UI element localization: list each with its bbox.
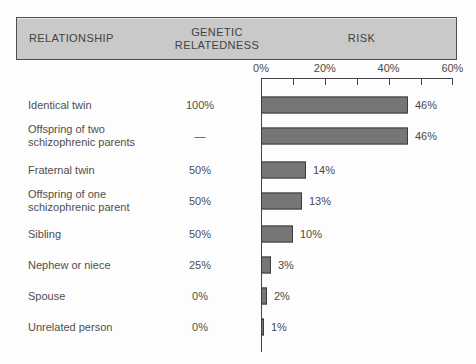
relationship-label: Unrelated person [28,320,168,333]
x-axis-tick [261,79,262,85]
risk-value-label: 1% [271,321,287,333]
y-axis-line [261,78,262,352]
x-axis-tick-label: 40% [378,63,400,74]
column-header-bar: RELATIONSHIP GENETIC RELATEDNESS RISK [16,17,457,60]
x-axis-tick [325,79,326,85]
relationship-label: Offspring of one schizophrenic parent [28,188,168,214]
relationship-label: Spouse [28,289,168,302]
genetic-relatedness-value: 100% [160,99,240,111]
x-axis-tick-label: 20% [314,63,336,74]
relationship-label: Fraternal twin [28,163,168,176]
header-risk: RISK [267,32,456,45]
risk-bar [261,225,293,242]
risk-bar [261,161,306,178]
risk-bar [261,318,264,335]
genetic-relatedness-value: 50% [160,228,240,240]
risk-bar [261,96,408,113]
risk-bar [261,192,302,209]
genetic-relatedness-value: 0% [160,290,240,302]
header-genetic-relatedness: GENETIC RELATEDNESS [167,26,267,52]
x-axis-tick [293,79,294,85]
risk-value-label: 14% [313,164,335,176]
relationship-label: Nephew or niece [28,258,168,271]
risk-value-label: 3% [278,259,294,271]
risk-value-label: 46% [415,99,437,111]
x-axis-tick [421,79,422,85]
x-axis-tick-label: 60% [441,63,463,74]
x-axis-tick-label: 0% [253,63,269,74]
x-axis-tick [357,79,358,85]
risk-value-label: 10% [300,228,322,240]
genetic-relatedness-value: 50% [160,195,240,207]
schizophrenia-risk-chart: RELATIONSHIP GENETIC RELATEDNESS RISK 0%… [0,0,476,364]
relationship-label: Identical twin [28,98,168,111]
genetic-relatedness-value: 50% [160,164,240,176]
x-axis-tick [389,79,390,85]
genetic-relatedness-value: 0% [160,321,240,333]
risk-bar [261,256,271,273]
x-axis-tick [452,79,453,85]
risk-bar [261,127,408,144]
risk-value-label: 46% [415,130,437,142]
genetic-relatedness-value: — [160,130,240,142]
header-relationship: RELATIONSHIP [17,32,167,45]
relationship-label: Offspring of two schizophrenic parents [28,123,168,149]
relationship-label: Sibling [28,227,168,240]
risk-bar [261,287,267,304]
genetic-relatedness-value: 25% [160,259,240,271]
risk-value-label: 13% [309,195,331,207]
risk-value-label: 2% [274,290,290,302]
